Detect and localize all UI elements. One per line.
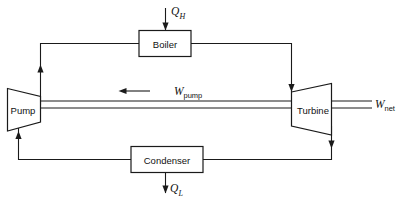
work-pump-subscript: pump [184, 91, 203, 100]
pump-label: Pump [11, 105, 36, 116]
pipe-pump-to-boiler [37, 44, 139, 106]
shaft-turbine-output [332, 101, 373, 108]
turbine-label: Turbine [297, 105, 329, 116]
heat-output-label: Q L [170, 182, 184, 198]
down-arrow-icon [162, 23, 168, 31]
work-pump-arrow [119, 88, 151, 94]
condensate-line-path [19, 122, 132, 160]
work-pump-label: W pump [174, 85, 202, 100]
heat-output-arrow [162, 172, 168, 194]
up-arrow-icon [37, 65, 43, 73]
up-arrow-icon [15, 131, 21, 139]
left-arrow-icon [119, 88, 127, 94]
down-arrow-icon [288, 84, 294, 92]
heat-input-label: Q H [171, 5, 187, 21]
work-net-label: W net [375, 98, 396, 113]
down-arrow-icon [328, 141, 334, 149]
heat-input-subscript: H [179, 12, 187, 21]
cycle-diagram-canvas: Boiler Condenser Pump Turbine Q H Q L W … [0, 0, 400, 204]
feedwater-line-path [41, 44, 140, 106]
shaft-pump-turbine [41, 101, 292, 108]
heat-output-subscript: L [178, 189, 184, 198]
pipe-condenser-to-pump [15, 122, 131, 160]
rankine-cycle-diagram: Boiler Condenser Pump Turbine Q H Q L W … [0, 0, 400, 204]
down-arrow-icon [162, 186, 168, 194]
work-net-subscript: net [385, 104, 396, 113]
condenser-label: Condenser [144, 155, 190, 166]
steam-line-path [191, 44, 292, 93]
boiler-label: Boiler [153, 39, 177, 50]
pipe-boiler-to-turbine [191, 44, 295, 93]
heat-input-arrow [162, 8, 168, 31]
